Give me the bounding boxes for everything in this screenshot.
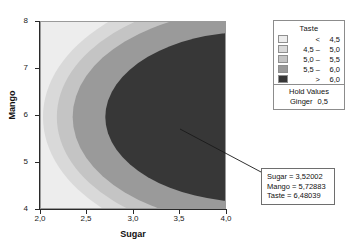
legend-row: < 4,5: [278, 34, 340, 44]
x-tick-label: 3,0: [118, 215, 148, 223]
data-label-sugar: Sugar = 3,52002: [267, 172, 330, 182]
legend-swatch: [278, 65, 288, 73]
y-axis-line: [39, 21, 40, 210]
hold-value-name: Ginger: [290, 97, 313, 106]
y-tick-label: 5: [0, 158, 28, 166]
data-point-label[interactable]: Sugar = 3,52002 Mango = 5,72883 Taste = …: [261, 168, 335, 205]
legend-row: 5,5 – 6,0: [278, 64, 340, 74]
legend-row: 5,0 – 5,5: [278, 54, 340, 64]
legend-range-high: 6,0: [322, 65, 340, 74]
data-label-mango: Mango = 5,72883: [267, 182, 330, 192]
x-tick-label: 3,5: [164, 215, 194, 223]
contour-plot-figure: 8 7 6 5 4 2,0 2,5 3,0 3,5 4,0 Sugar Mang…: [0, 0, 356, 249]
y-tick-label: 8: [0, 17, 28, 25]
x-tick-label: 4,0: [211, 215, 241, 223]
legend-range-high: 4,5: [322, 35, 340, 44]
legend-swatch: [278, 55, 288, 63]
y-tick-mark: [35, 21, 39, 22]
legend-range-low: <: [291, 35, 322, 44]
legend-range-low: 4,5 –: [291, 45, 322, 54]
legend-swatch: [278, 45, 288, 53]
data-label-taste: Taste = 6,48039: [267, 191, 330, 201]
legend-range-high: 5,0: [322, 45, 340, 54]
legend-row: 4,5 – 5,0: [278, 44, 340, 54]
y-tick-label: 7: [0, 64, 28, 72]
legend-range-high: 6,0: [322, 75, 340, 84]
y-tick-mark: [35, 68, 39, 69]
legend-range-high: 5,5: [322, 55, 340, 64]
legend-range-low: 5,0 –: [291, 55, 322, 64]
x-tick-label: 2,0: [25, 215, 55, 223]
y-tick-mark: [35, 209, 39, 210]
x-tick-label: 2,5: [71, 215, 101, 223]
legend-swatch: [278, 75, 288, 83]
hold-values-box: Hold Values Ginger 0,5: [273, 84, 345, 110]
plot-area[interactable]: [40, 21, 226, 209]
legend-row: > 6,0: [278, 74, 340, 84]
y-tick-label: 4: [0, 205, 28, 213]
legend-range-low: >: [291, 75, 322, 84]
hold-values-row: Ginger 0,5: [278, 97, 340, 106]
y-axis-title: Mango: [7, 75, 17, 135]
contour-bands: [41, 22, 225, 208]
legend-swatch: [278, 35, 288, 43]
legend-title: Taste: [278, 24, 340, 33]
y-tick-mark: [35, 162, 39, 163]
x-axis-title: Sugar: [40, 229, 226, 239]
hold-values-title: Hold Values: [278, 87, 340, 96]
legend-range-low: 5,5 –: [291, 65, 322, 74]
y-tick-mark: [35, 115, 39, 116]
hold-value-number: 0,5: [318, 97, 328, 106]
legend: Taste < 4,5 4,5 – 5,0 5,0 – 5,5 5,5 – 6,…: [273, 20, 345, 89]
